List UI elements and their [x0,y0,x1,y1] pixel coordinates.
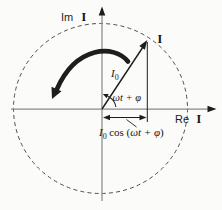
real-axis-arrowhead-icon [208,106,217,113]
phasor-vector-arrowhead-icon [139,40,147,50]
projection-close-paren: ) [160,126,164,139]
phasor-magnitude-label: I0 [110,67,119,82]
im-axis-label-prefix: Im [61,11,73,23]
imaginary-axis-arrowhead-icon [99,7,106,16]
phasor-tip-label: I [158,32,163,46]
angle-label: ωt + φ [113,92,142,103]
projection-argument: ωt + φ [130,126,160,138]
im-axis-label-symbol: I [82,10,87,24]
re-axis-label-symbol: I [197,112,202,126]
angle-arc-arrowhead-icon [103,94,109,98]
phasor-diagram-figure: Im I Re I I I0 ωt + φ I0cos (ωt + φ) [0,0,222,210]
dimension-arrowhead-right-icon [140,115,147,120]
projection-label: I0cos (ωt + φ) [98,126,164,141]
phasor-diagram-canvas: Im I Re I I I0 ωt + φ I0cos (ωt + φ) [0,0,222,210]
projection-subscript: 0 [103,132,107,141]
rotation-direction-arrow [57,51,128,89]
magnitude-subscript: 0 [115,73,119,82]
projection-cos: cos ( [109,126,130,139]
re-axis-label-prefix: Re [175,113,189,125]
dimension-arrowhead-left-icon [103,115,110,120]
